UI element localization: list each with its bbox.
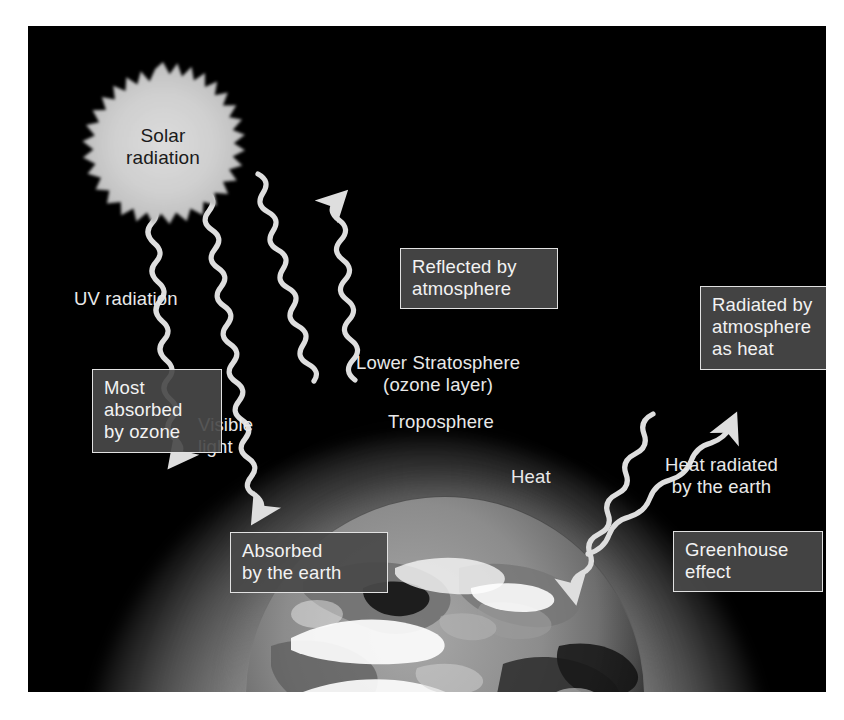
label-troposphere: Troposphere	[388, 411, 494, 433]
callout-most-absorbed-by-ozone: Most absorbed by ozone	[92, 369, 222, 453]
callout-reflected-by-atmosphere: Reflected by atmosphere	[400, 248, 558, 309]
callout-absorbed-by-the-earth: Absorbed by the earth	[230, 532, 388, 593]
label-heat-radiated: Heat radiated by the earth	[665, 454, 778, 498]
callout-radiated-by-atmosphere: Radiated by atmosphere as heat	[700, 286, 826, 370]
label-lower-stratosphere: Lower Stratosphere (ozone layer)	[356, 352, 520, 396]
diagram-page: Solar radiation UV radiation Visible lig…	[0, 0, 844, 720]
label-heat: Heat	[511, 466, 551, 488]
callout-greenhouse-effect: Greenhouse effect	[673, 531, 823, 592]
ray-reflected-outgoing	[332, 202, 357, 380]
ray-reflected-incoming	[258, 174, 316, 381]
label-uv-radiation: UV radiation	[74, 288, 178, 310]
greenhouse-effect-figure: Solar radiation UV radiation Visible lig…	[28, 26, 826, 692]
sun-icon: Solar radiation	[70, 54, 256, 240]
